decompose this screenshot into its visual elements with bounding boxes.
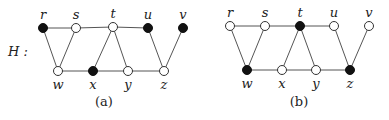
vertex-y-open <box>124 67 133 76</box>
vertex-label-v: v <box>179 7 187 22</box>
vertex-v-open <box>365 22 374 31</box>
vertex-s-open <box>261 22 270 31</box>
vertex-label-r: r <box>40 7 47 22</box>
vertex-u-open <box>330 22 339 31</box>
edge-t-y <box>113 27 128 71</box>
vertex-z-filled <box>346 66 355 75</box>
vertex-label-x: x <box>89 77 97 92</box>
panel-a: rstuvwxyz(a) <box>39 6 188 109</box>
vertex-label-w: w <box>52 77 63 92</box>
edge-v-z <box>350 26 369 70</box>
vertex-label-y: y <box>311 76 320 91</box>
edge-u-z <box>334 26 350 70</box>
vertex-label-x: x <box>278 76 286 91</box>
vertex-x-filled <box>89 67 98 76</box>
vertex-label-w: w <box>241 76 252 91</box>
edge-s-t <box>76 27 113 28</box>
edge-s-w <box>247 26 265 70</box>
vertex-label-t: t <box>297 5 303 20</box>
edge-r-w <box>230 26 247 70</box>
vertex-label-s: s <box>73 7 80 22</box>
edge-t-y <box>300 26 316 70</box>
caption-b: (b) <box>290 94 308 109</box>
vertex-u-filled <box>144 24 153 33</box>
graph-figure: H : rstuvwxyz(a) rstuvwxyz(b) <box>0 0 389 120</box>
vertex-s-open <box>72 24 81 33</box>
vertex-label-u: u <box>144 7 152 22</box>
vertex-w-filled <box>243 66 252 75</box>
vertex-label-s: s <box>262 5 269 20</box>
vertex-label-v: v <box>365 5 373 20</box>
vertex-label-z: z <box>346 76 354 91</box>
edge-u-z <box>148 28 164 71</box>
vertex-x-open <box>278 66 287 75</box>
vertex-label-u: u <box>330 5 338 20</box>
vertex-z-open <box>160 67 169 76</box>
edge-s-w <box>58 28 76 71</box>
edge-v-z <box>164 28 183 71</box>
vertex-label-r: r <box>227 5 234 20</box>
vertex-t-filled <box>296 22 305 31</box>
edge-t-u <box>113 27 148 28</box>
edge-r-w <box>43 28 58 71</box>
vertex-r-filled <box>39 24 48 33</box>
vertex-y-open <box>312 66 321 75</box>
edge-t-x <box>282 26 300 70</box>
vertex-w-open <box>54 67 63 76</box>
edge-t-x <box>93 27 113 71</box>
panel-b: rstuvwxyz(b) <box>226 5 374 109</box>
vertex-v-filled <box>179 24 188 33</box>
vertex-r-open <box>226 22 235 31</box>
vertex-label-t: t <box>110 6 116 21</box>
vertex-label-z: z <box>160 77 168 92</box>
graph-name-label: H : <box>7 44 28 59</box>
vertex-t-open <box>109 23 118 32</box>
caption-a: (a) <box>95 94 113 109</box>
vertex-label-y: y <box>123 77 132 92</box>
